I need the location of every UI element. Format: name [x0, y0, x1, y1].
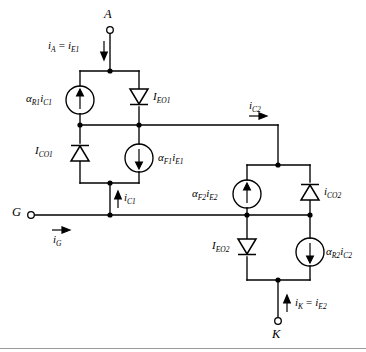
- label-ico2: iCO2: [324, 186, 341, 197]
- junction-dot-gate-mid: [244, 212, 249, 217]
- ieo1-sub: EO1: [157, 96, 171, 105]
- current-label-ig: iG: [53, 234, 61, 245]
- terminal-label-g: G: [12, 206, 21, 219]
- ik-sub: K: [298, 302, 303, 311]
- junction-dot-right-top: [275, 162, 280, 167]
- alpha-f1-sub: F1: [164, 157, 172, 166]
- terminal-g-circle[interactable]: [28, 212, 35, 219]
- junction-dot-gate-left: [107, 212, 112, 217]
- ic1-sub: C1: [127, 197, 136, 206]
- ig-sub: G: [56, 239, 61, 248]
- diode-ico1-triangle: [71, 146, 89, 161]
- ico2-sub: CO2: [327, 191, 341, 200]
- junction-dot-gate-right: [307, 212, 312, 217]
- junction-dot-top: [107, 68, 112, 73]
- alpha-r2-sub: R2: [332, 251, 340, 260]
- alpha-r2-glyph: α: [326, 245, 332, 257]
- label-alpha-r2-ic2: αR2iC2: [326, 246, 352, 257]
- alpha-r1-glyph: α: [26, 92, 32, 104]
- alpha-f2-glyph: α: [192, 187, 198, 199]
- source-arrowhead-down-r2: [307, 256, 314, 263]
- ico1-sub: CO1: [39, 150, 53, 159]
- alpha-f1-glyph: α: [158, 151, 164, 163]
- page-bottom-rule: [0, 348, 366, 349]
- alpha-f2-isub: E2: [209, 193, 217, 202]
- junction-dot-left-mid: [77, 122, 82, 127]
- terminal-k-circle[interactable]: [275, 318, 282, 325]
- circuit-diagram-canvas: A G K iA=iE1 αR1iC1 IEO1 ICO1 αF1iE1 iC2…: [0, 0, 366, 352]
- label-ieo1: IEO1: [153, 91, 170, 102]
- label-alpha-f1-ie1: αF1iE1: [158, 152, 184, 163]
- label-ieo2: IEO2: [212, 240, 229, 251]
- junction-dots: [77, 68, 312, 282]
- junction-dot-left-bottom: [107, 180, 112, 185]
- ia-eq: =: [59, 39, 65, 51]
- current-label-ic1: iC1: [124, 192, 136, 203]
- ic2-sub: C2: [252, 105, 261, 114]
- junction-dot-right-mid: [136, 122, 141, 127]
- ik-sub2: E2: [318, 302, 326, 311]
- annotation-arrow-ic1-head: [115, 191, 122, 199]
- label-alpha-r1-ic1: αR1iC1: [26, 93, 52, 104]
- ik-eq: =: [306, 296, 312, 308]
- label-ico1: ICO1: [35, 145, 53, 156]
- alpha-f1-isub: E1: [175, 157, 183, 166]
- current-label-ia: iA=iE1: [48, 40, 79, 51]
- terminal-a-circle[interactable]: [107, 27, 114, 34]
- alpha-r2-isub: C2: [343, 251, 352, 260]
- terminal-circles: [28, 27, 282, 325]
- ia-sub: A: [51, 45, 56, 54]
- diode-ieo2-triangle: [238, 239, 256, 254]
- current-label-ik: iK=iE2: [295, 297, 327, 308]
- annotation-arrow-ig-head: [62, 227, 70, 233]
- terminal-label-k: K: [272, 328, 280, 341]
- source-arrowhead-up-r1: [77, 89, 84, 96]
- source-arrowhead-down-f1: [136, 162, 143, 169]
- source-arrowhead-up-f2: [244, 183, 251, 190]
- terminal-label-a: A: [104, 8, 112, 21]
- alpha-r1-sub: R1: [32, 98, 40, 107]
- annotation-arrow-ia-head: [101, 52, 108, 60]
- alpha-r1-isub: C1: [43, 98, 52, 107]
- junction-dot-right-bottom: [275, 277, 280, 282]
- annotation-arrow-ik-head: [284, 295, 291, 303]
- label-alpha-f2-ie2: αF2iE2: [192, 188, 218, 199]
- current-label-ic2: iC2: [249, 100, 261, 111]
- alpha-f2-sub: F2: [198, 193, 206, 202]
- diode-ico2-triangle: [301, 185, 319, 200]
- diode-ieo1-triangle: [130, 89, 148, 104]
- ieo2-sub: EO2: [216, 245, 230, 254]
- ia-sub2: E1: [71, 45, 79, 54]
